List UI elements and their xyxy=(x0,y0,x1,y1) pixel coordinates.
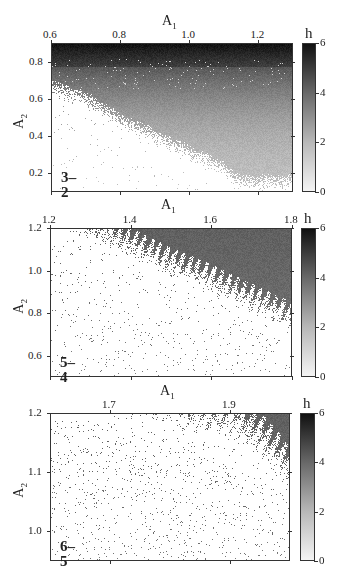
colorbar-tick-mark xyxy=(315,93,319,94)
heatmap-cells xyxy=(51,414,289,560)
y-tick-mark xyxy=(47,531,51,532)
x-tick-mark xyxy=(110,560,111,564)
colorbar-title: h xyxy=(305,26,313,41)
x-tick-label: 1.9 xyxy=(222,399,236,410)
y-tick-mark xyxy=(291,99,295,100)
x-axis-title-sub: 1 xyxy=(171,205,176,215)
y-tick-label: 0.8 xyxy=(29,56,43,67)
colorbar-tick-mark xyxy=(314,413,318,414)
colorbar-tick-label: 6 xyxy=(319,407,325,418)
y-tick-label: 0.2 xyxy=(29,167,43,178)
y-tick-label: 1.0 xyxy=(28,265,42,276)
x-tick-mark xyxy=(258,191,259,195)
x-axis-title-sub: 1 xyxy=(170,391,175,401)
colorbar-title: h xyxy=(303,396,311,411)
x-tick-label: 1.4 xyxy=(123,214,137,225)
y-axis-title-main: A xyxy=(11,118,26,128)
colorbar-tick-mark xyxy=(315,142,319,143)
x-tick-mark xyxy=(189,191,190,195)
y-tick-mark xyxy=(48,99,52,100)
y-tick-mark xyxy=(291,136,295,137)
y-tick-mark xyxy=(47,313,51,314)
y-tick-label: 1.1 xyxy=(28,466,42,477)
x-tick-label: 1.0 xyxy=(181,29,195,40)
x-tick-mark xyxy=(51,40,52,44)
y-tick-mark xyxy=(291,62,295,63)
x-tick-mark xyxy=(230,560,231,564)
heatmap-cells xyxy=(52,44,292,191)
y-tick-label: 1.2 xyxy=(28,407,42,418)
heatmap-plot xyxy=(50,413,290,561)
y-tick-mark xyxy=(290,271,294,272)
colorbar-tick-label: 2 xyxy=(320,136,326,147)
y-tick-label: 1.0 xyxy=(28,525,42,536)
panel-label: 6–5 xyxy=(60,539,75,569)
y-tick-mark xyxy=(290,356,294,357)
y-tick-mark xyxy=(288,531,292,532)
colorbar-tick-mark xyxy=(315,192,319,193)
x-axis-title: A1 xyxy=(162,14,177,33)
colorbar-tick-mark xyxy=(315,43,319,44)
y-axis-title: A2 xyxy=(12,114,31,129)
x-tick-label: 1.8 xyxy=(284,214,298,225)
x-tick-mark xyxy=(211,225,212,229)
x-tick-mark xyxy=(189,40,190,44)
colorbar xyxy=(301,228,316,377)
colorbar-title: h xyxy=(304,211,312,226)
y-axis-title: A2 xyxy=(12,299,31,314)
colorbar-tick-label: 6 xyxy=(320,222,326,233)
colorbar-tick-mark xyxy=(315,278,319,279)
x-tick-mark xyxy=(51,191,52,195)
panel-label: 3–2 xyxy=(61,170,76,200)
heatmap-plot xyxy=(51,43,293,192)
heatmap-plot xyxy=(50,228,292,377)
x-tick-label: 0.6 xyxy=(43,29,57,40)
x-tick-mark xyxy=(120,191,121,195)
y-axis-title-sub: 2 xyxy=(19,114,29,119)
x-axis-title-main: A xyxy=(162,13,172,28)
y-tick-mark xyxy=(48,136,52,137)
y-tick-label: 0.6 xyxy=(28,350,42,361)
x-tick-mark xyxy=(50,376,51,380)
x-tick-label: 0.8 xyxy=(112,29,126,40)
colorbar xyxy=(302,43,316,192)
colorbar-tick-label: 4 xyxy=(320,87,326,98)
heatmap-cells xyxy=(51,229,291,376)
y-tick-mark xyxy=(47,228,51,229)
y-tick-mark xyxy=(47,472,51,473)
x-tick-mark xyxy=(110,410,111,414)
x-tick-label: 1.2 xyxy=(42,214,56,225)
y-tick-mark xyxy=(290,228,294,229)
x-axis-title: A1 xyxy=(161,198,176,217)
y-tick-label: 0.4 xyxy=(29,130,43,141)
y-axis-title-sub: 2 xyxy=(19,299,29,304)
y-tick-mark xyxy=(288,413,292,414)
y-tick-label: 1.2 xyxy=(28,222,42,233)
x-tick-mark xyxy=(120,40,121,44)
x-axis-title: A1 xyxy=(160,384,175,403)
x-axis-title-main: A xyxy=(160,383,170,398)
colorbar-tick-mark xyxy=(314,512,318,513)
colorbar-tick-label: 0 xyxy=(319,555,325,566)
y-tick-mark xyxy=(290,313,294,314)
colorbar-tick-label: 0 xyxy=(320,186,326,197)
x-tick-mark xyxy=(211,376,212,380)
colorbar-tick-mark xyxy=(315,228,319,229)
x-tick-label: 1.7 xyxy=(102,399,116,410)
y-tick-mark xyxy=(47,413,51,414)
y-axis-title-main: A xyxy=(11,488,26,498)
x-tick-mark xyxy=(292,376,293,380)
colorbar-tick-mark xyxy=(315,377,319,378)
x-tick-mark xyxy=(131,376,132,380)
y-tick-mark xyxy=(48,173,52,174)
colorbar-tick-label: 2 xyxy=(319,506,325,517)
y-tick-mark xyxy=(47,271,51,272)
y-axis-title-main: A xyxy=(11,303,26,313)
y-tick-mark xyxy=(47,356,51,357)
colorbar-tick-label: 4 xyxy=(319,456,325,467)
colorbar-tick-mark xyxy=(315,327,319,328)
colorbar xyxy=(300,413,315,561)
x-tick-mark xyxy=(131,225,132,229)
x-tick-mark xyxy=(258,40,259,44)
colorbar-tick-mark xyxy=(314,561,318,562)
